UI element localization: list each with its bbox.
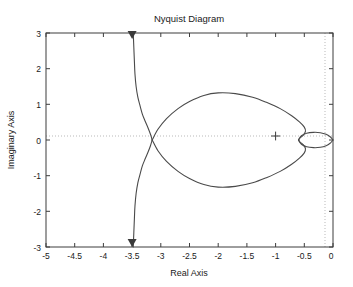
x-tick-labels: -5 -4.5 -4 -3.5 -3 -2.5 -2 -1.5 -1 -0.5 … bbox=[42, 251, 333, 261]
x-tick-label: -3 bbox=[157, 251, 165, 261]
x-tick-label: -3.5 bbox=[125, 251, 140, 261]
y-axis-label: Imaginary Axis bbox=[6, 110, 16, 169]
axes-frame bbox=[46, 33, 333, 247]
x-tick-label: -4 bbox=[100, 251, 108, 261]
nyquist-branch-upper bbox=[133, 33, 152, 140]
y-tick-label: 2 bbox=[36, 64, 41, 74]
critical-point-marker bbox=[271, 132, 280, 141]
x-tick-label: -0.5 bbox=[297, 251, 312, 261]
direction-arrow-bottom bbox=[128, 239, 137, 247]
y-tick-label: -2 bbox=[33, 207, 41, 217]
y-tickmarks bbox=[46, 33, 333, 247]
nyquist-main-lobe-lower bbox=[152, 140, 305, 187]
x-tick-label: 0 bbox=[329, 251, 334, 261]
direction-arrow-top bbox=[128, 31, 137, 39]
y-tick-label: 3 bbox=[36, 29, 41, 39]
x-axis-label: Real Axis bbox=[170, 268, 208, 278]
page-title: Nyquist Diagram bbox=[154, 13, 224, 24]
y-tick-label: 1 bbox=[36, 100, 41, 110]
nyquist-figure: Nyquist Diagram bbox=[0, 0, 353, 287]
x-tick-label: -2 bbox=[214, 251, 222, 261]
nyquist-curve bbox=[133, 33, 333, 247]
plot-canvas: Nyquist Diagram bbox=[0, 0, 353, 287]
x-tick-label: -1.5 bbox=[240, 251, 255, 261]
y-tick-label: -3 bbox=[33, 243, 41, 253]
x-tickmarks bbox=[46, 33, 333, 247]
y-tick-label: 0 bbox=[36, 136, 41, 146]
x-tick-label: -4.5 bbox=[67, 251, 82, 261]
nyquist-branch-lower bbox=[133, 140, 152, 247]
nyquist-inner-lens-lower bbox=[299, 140, 333, 148]
y-tick-labels: 3 2 1 0 -1 -2 -3 bbox=[33, 29, 41, 253]
y-tick-label: -1 bbox=[33, 171, 41, 181]
x-tick-label: -5 bbox=[42, 251, 50, 261]
x-tick-label: -2.5 bbox=[182, 251, 197, 261]
nyquist-inner-lens-upper bbox=[299, 132, 333, 140]
x-tick-label: -1 bbox=[272, 251, 280, 261]
nyquist-main-lobe-upper bbox=[152, 93, 305, 140]
